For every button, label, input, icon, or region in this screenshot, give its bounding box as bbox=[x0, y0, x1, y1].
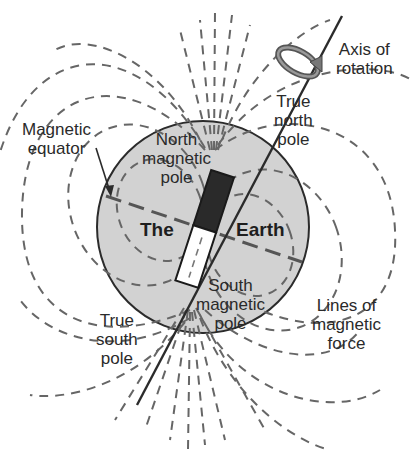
label-the: The bbox=[140, 220, 174, 239]
label-line: magnetic bbox=[196, 295, 265, 314]
label-line: Lines of bbox=[312, 296, 381, 315]
label-line: Axis of bbox=[336, 40, 393, 59]
label-north-magnetic-pole: North magnetic pole bbox=[142, 130, 211, 187]
label-line: force bbox=[312, 334, 381, 353]
label-line: pole bbox=[142, 168, 211, 187]
label-line: magnetic bbox=[142, 149, 211, 168]
label-line: pole bbox=[274, 130, 313, 149]
label-magnetic-equator: Magnetic equator bbox=[22, 120, 91, 158]
label-line: equator bbox=[22, 139, 91, 158]
label-line: magnetic bbox=[312, 315, 381, 334]
label-line: True bbox=[96, 311, 138, 330]
label-line: north bbox=[274, 111, 313, 130]
label-line: pole bbox=[96, 349, 138, 368]
rotation-arrow-icon bbox=[273, 41, 322, 82]
label-line: South bbox=[196, 276, 265, 295]
label-earth: Earth bbox=[236, 220, 285, 239]
label-line: pole bbox=[196, 314, 265, 333]
label-true-north-pole: True north pole bbox=[274, 92, 313, 149]
label-lines-of-magnetic-force: Lines of magnetic force bbox=[312, 296, 381, 353]
label-south-magnetic-pole: South magnetic pole bbox=[196, 276, 265, 333]
label-line: south bbox=[96, 330, 138, 349]
label-axis-of-rotation: Axis of rotation bbox=[336, 40, 393, 78]
label-line: True bbox=[274, 92, 313, 111]
label-line: North bbox=[142, 130, 211, 149]
label-line: Magnetic bbox=[22, 120, 91, 139]
label-line: rotation bbox=[336, 59, 393, 78]
label-true-south-pole: True south pole bbox=[96, 311, 138, 368]
